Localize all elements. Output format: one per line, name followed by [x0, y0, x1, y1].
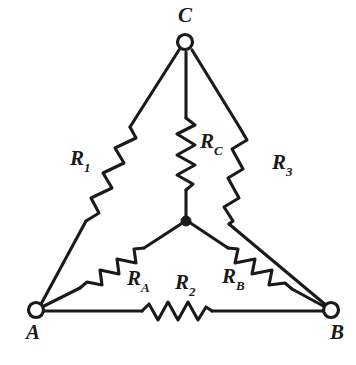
- node-marker-center-junction: [181, 216, 191, 226]
- resistor-label-r1-base: R: [70, 146, 84, 170]
- resistor-label-ra-base: R: [127, 266, 141, 290]
- resistor-r3-zigzag: [224, 128, 247, 224]
- wire-node-to-rb: [189, 222, 228, 248]
- node-marker-b: [324, 303, 339, 318]
- node-label-b: B: [330, 322, 344, 343]
- wire-c-to-r3: [192, 50, 240, 128]
- resistor-label-rb: RB: [222, 266, 245, 289]
- resistor-label-rc-base: R: [200, 129, 214, 153]
- node-marker-a: [29, 303, 44, 318]
- node-label-c: C: [178, 5, 192, 26]
- wire-r3-to-b: [229, 224, 327, 306]
- circuit-schematic-svg: [0, 0, 356, 365]
- resistor-r1-zigzag: [86, 127, 136, 221]
- resistor-rc-zigzag: [177, 118, 195, 190]
- resistor-label-r3-subscript: 3: [286, 164, 293, 179]
- resistor-label-r1-subscript: 1: [84, 160, 91, 175]
- resistor-label-r2-subscript: 2: [189, 284, 196, 299]
- resistor-label-r2-base: R: [175, 270, 189, 294]
- wire-node-to-ra: [144, 222, 184, 248]
- resistor-label-rc: RC: [200, 131, 223, 154]
- resistor-label-ra-subscript: A: [141, 280, 150, 295]
- resistor-label-rb-subscript: B: [236, 278, 245, 293]
- resistor-label-rc-subscript: C: [214, 143, 223, 158]
- circuit-diagram-figure: C A B R1 R2 R3 RA RB RC: [0, 0, 356, 365]
- wire-a-to-r1: [40, 221, 86, 306]
- resistor-label-r3: R3: [272, 152, 293, 175]
- resistor-label-r2: R2: [175, 272, 196, 295]
- node-marker-c: [178, 35, 193, 50]
- resistor-label-r1: R1: [70, 148, 91, 171]
- wire-r1-to-c: [130, 50, 179, 127]
- node-label-a: A: [26, 322, 40, 343]
- resistor-r2-zigzag: [142, 302, 212, 320]
- resistor-label-r3-base: R: [272, 150, 286, 174]
- resistor-label-rb-base: R: [222, 264, 236, 288]
- resistor-label-ra: RA: [127, 268, 150, 291]
